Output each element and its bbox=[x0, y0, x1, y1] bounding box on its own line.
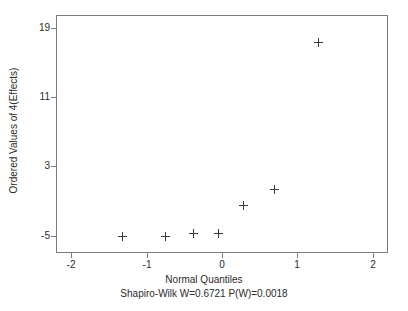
normal-quantile-plot-figure: 19113-5 -2-1012 Ordered Values of 4(Effe… bbox=[0, 0, 408, 311]
y-tick-mark bbox=[51, 236, 56, 237]
y-axis-title-label: Ordered Values of 4(Effects) bbox=[9, 67, 20, 193]
x-tick-mark bbox=[147, 253, 148, 258]
x-tick-mark bbox=[71, 253, 72, 258]
x-tick-mark bbox=[297, 253, 298, 258]
x-tick-label: -2 bbox=[67, 260, 76, 270]
y-tick-label: 3 bbox=[44, 161, 50, 171]
x-tick-mark bbox=[373, 253, 374, 258]
x-tick-label: 2 bbox=[370, 260, 376, 270]
y-tick-label: 11 bbox=[40, 92, 50, 102]
y-tick-mark bbox=[51, 28, 56, 29]
x-tick-label: 0 bbox=[219, 260, 225, 270]
y-axis-title: Ordered Values of 4(Effects) bbox=[5, 0, 23, 260]
x-axis-title: Normal Quantiles bbox=[0, 274, 408, 285]
plot-area-frame bbox=[56, 15, 388, 253]
x-tick-label: -1 bbox=[143, 260, 152, 270]
y-tick-mark bbox=[51, 166, 56, 167]
y-tick-label: -5 bbox=[41, 231, 50, 241]
x-tick-label: 1 bbox=[294, 260, 300, 270]
x-tick-mark bbox=[222, 253, 223, 258]
y-tick-mark bbox=[51, 97, 56, 98]
y-tick-label: 19 bbox=[39, 23, 50, 33]
shapiro-wilk-subtitle: Shapiro-Wilk W=0.6721 P(W)=0.0018 bbox=[0, 288, 408, 299]
